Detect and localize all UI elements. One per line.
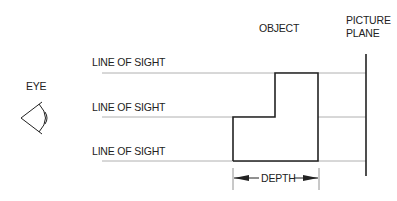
line-of-sight-label-2: LINE OF SIGHT: [92, 101, 165, 113]
picture-plane-label-1: PICTURE: [346, 14, 391, 26]
diagram-graphics: [0, 0, 397, 201]
depth-label: DEPTH: [261, 172, 296, 184]
line-of-sight-label-3: LINE OF SIGHT: [92, 145, 165, 157]
eye-icon: [21, 102, 47, 134]
eye-label: EYE: [26, 80, 46, 92]
object-label: OBJECT: [259, 22, 299, 34]
arrow-right-icon: [303, 175, 318, 181]
line-of-sight-label-1: LINE OF SIGHT: [92, 56, 165, 68]
arrow-left-icon: [234, 175, 249, 181]
picture-plane-label-2: PLANE: [346, 27, 379, 39]
orthographic-projection-diagram: EYE OBJECT PICTURE PLANE LINE OF SIGHT L…: [0, 0, 397, 201]
object-outline: [233, 73, 318, 161]
